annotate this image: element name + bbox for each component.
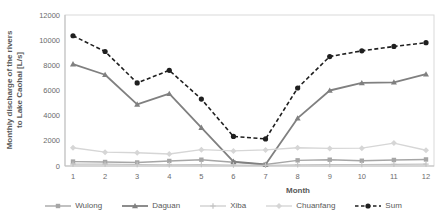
plus-marker-icon	[210, 203, 215, 208]
legend-label: Chuanfang	[296, 201, 335, 211]
data-series	[70, 33, 429, 168]
diamond-marker-icon	[327, 145, 333, 151]
series-line	[73, 36, 426, 139]
legend-key-xiba	[199, 201, 227, 211]
series-chuanfang	[70, 140, 429, 157]
circle-marker-icon	[423, 40, 428, 45]
y-axis-title-line2: to Lake Caohai [L/s]	[15, 52, 24, 128]
diamond-marker-icon	[230, 148, 236, 154]
square-marker-icon	[56, 204, 60, 208]
legend-item-daguan: Daguan	[121, 201, 180, 211]
diamond-marker-icon	[102, 149, 108, 155]
x-tick-label: 4	[167, 172, 171, 181]
square-marker-icon	[199, 158, 203, 162]
x-tick-label: 8	[296, 172, 300, 181]
x-tick-label: 7	[263, 172, 267, 181]
diamond-marker-icon	[391, 140, 397, 146]
y-tick-label: 2000	[43, 136, 60, 145]
plus-marker-icon	[295, 162, 300, 167]
legend-key-sum	[354, 201, 382, 211]
x-tick-label: 9	[328, 172, 332, 181]
legend-label: Sum	[385, 201, 401, 211]
circle-marker-icon	[167, 68, 172, 73]
x-tick-label: 5	[199, 172, 203, 181]
circle-marker-icon	[366, 203, 371, 208]
legend-item-xiba: Xiba	[199, 201, 246, 211]
series-line	[73, 164, 426, 165]
chart-canvas: 020004000600080001000012000 123456789101…	[0, 0, 446, 224]
x-axis-tick-labels: 123456789101112	[71, 172, 430, 181]
square-marker-icon	[295, 158, 299, 162]
x-tick-label: 12	[422, 172, 430, 181]
square-marker-icon	[328, 158, 332, 162]
y-tick-label: 0	[56, 162, 60, 171]
legend-item-sum: Sum	[354, 201, 401, 211]
diamond-marker-icon	[423, 147, 429, 153]
legend-label: Wulong	[75, 201, 102, 211]
legend-label: Xiba	[230, 201, 246, 211]
legend-label: Daguan	[152, 201, 180, 211]
legend-key-daguan	[121, 201, 149, 211]
x-tick-label: 2	[103, 172, 107, 181]
x-tick-label: 1	[71, 172, 75, 181]
legend-item-wulong: Wulong	[44, 201, 102, 211]
series-sum	[70, 33, 428, 141]
y-axis-title-line1: Monthly discharge of the rivers	[5, 30, 14, 149]
diamond-marker-icon	[359, 145, 365, 151]
y-tick-label: 4000	[43, 111, 60, 120]
circle-marker-icon	[135, 80, 140, 85]
series-line	[73, 64, 426, 164]
y-tick-label: 6000	[43, 86, 60, 95]
circle-marker-icon	[359, 48, 364, 53]
x-axis-title: Month	[286, 186, 310, 195]
chart-legend: WulongDaguanXibaChuanfangSum	[0, 201, 446, 211]
x-tick-label: 10	[358, 172, 366, 181]
circle-marker-icon	[263, 136, 268, 141]
plot-area-border	[65, 15, 434, 166]
square-marker-icon	[392, 158, 396, 162]
circle-marker-icon	[327, 54, 332, 59]
triangle-marker-icon	[70, 61, 76, 66]
diamond-marker-icon	[198, 147, 204, 153]
legend-key-wulong	[44, 201, 72, 211]
x-tick-label: 11	[390, 172, 398, 181]
x-tick-label: 3	[135, 172, 139, 181]
diamond-marker-icon	[295, 145, 301, 151]
y-tick-label: 8000	[43, 61, 60, 70]
legend-item-chuanfang: Chuanfang	[265, 201, 335, 211]
circle-marker-icon	[231, 134, 236, 139]
diamond-marker-icon	[263, 147, 269, 153]
y-tick-label: 10000	[39, 36, 60, 45]
x-tick-label: 6	[231, 172, 235, 181]
diamond-marker-icon	[166, 151, 172, 157]
circle-marker-icon	[295, 85, 300, 90]
square-marker-icon	[424, 157, 428, 161]
y-tick-label: 12000	[39, 11, 60, 20]
triangle-marker-icon	[166, 91, 172, 96]
diamond-marker-icon	[276, 203, 282, 209]
series-line	[73, 143, 426, 154]
discharge-line-chart: 020004000600080001000012000 123456789101…	[0, 0, 446, 224]
diamond-marker-icon	[134, 150, 140, 156]
circle-marker-icon	[391, 44, 396, 49]
circle-marker-icon	[70, 33, 75, 38]
circle-marker-icon	[199, 96, 204, 101]
y-axis-tick-labels: 020004000600080001000012000	[39, 11, 60, 171]
diamond-marker-icon	[70, 145, 76, 151]
legend-key-chuanfang	[265, 201, 293, 211]
circle-marker-icon	[102, 49, 107, 54]
